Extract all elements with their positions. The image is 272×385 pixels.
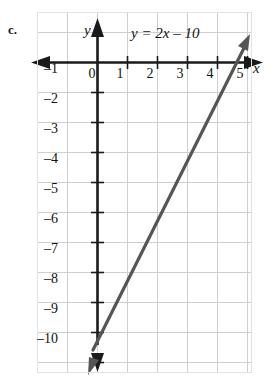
- x-tick-label: 4: [200, 66, 220, 82]
- y-tick-label: –4: [26, 151, 58, 167]
- y-tick-label: –5: [26, 181, 58, 197]
- x-tick-label: 1: [110, 66, 130, 82]
- y-tick-label: –2: [26, 91, 58, 107]
- x-tick-label: 0: [82, 66, 102, 82]
- equation-annotation: y = 2x – 10: [131, 25, 199, 42]
- y-tick-label: –8: [26, 271, 58, 287]
- x-tick-label: 5: [230, 66, 250, 82]
- x-tick-label: 2: [140, 66, 160, 82]
- grid-lines-horizontal: [37, 33, 251, 363]
- y-tick-label: –10: [26, 331, 58, 347]
- y-tick-label: –9: [26, 301, 58, 317]
- y-tick-label: –1: [26, 61, 58, 77]
- graph-figure: c.: [0, 0, 272, 385]
- y-axis-arrow-up: [91, 18, 104, 37]
- y-tick-label: –6: [26, 211, 58, 227]
- line-arrow-up: [238, 34, 250, 51]
- x-tick-label: 3: [170, 66, 190, 82]
- y-axis-label: y: [84, 22, 91, 39]
- x-axis-label: x: [253, 60, 260, 77]
- line-graph: [88, 34, 250, 375]
- y-tick-label: –7: [26, 241, 58, 257]
- y-tick-label: –3: [26, 121, 58, 137]
